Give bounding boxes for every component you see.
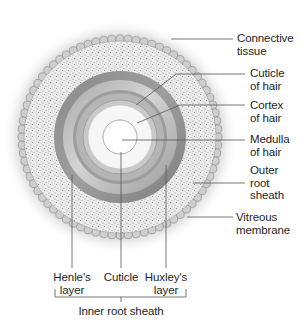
label-medulla-of-hair: Medulla of hair [250,133,290,158]
label-cuticle: Cuticle [104,271,138,284]
label-line: Connective [237,32,294,45]
label-line: membrane [236,224,290,237]
label-line: layer [145,284,187,297]
label-line: sheath [250,189,284,202]
label-huxleys-layer: Huxley's layer [145,271,187,296]
label-line: Cuticle [250,67,284,80]
label-line: Vitreous [236,211,290,224]
label-cortex-of-hair: Cortex of hair [250,99,283,124]
label-line: of hair [250,146,290,159]
label-outer-root-sheath: Outer root sheath [250,164,284,202]
label-line: Cortex [250,99,283,112]
label-line: root [250,177,284,190]
label-connective-tissue: Connective tissue [237,32,294,57]
label-line: of hair [250,80,284,93]
medulla-of-hair [103,120,137,154]
label-line: Medulla [250,133,290,146]
label-line: Outer [250,164,284,177]
label-henles-layer: Henle's layer [53,271,90,296]
label-cuticle-of-hair: Cuticle of hair [250,67,284,92]
label-line: of hair [250,112,283,125]
label-line: Huxley's [145,271,187,284]
label-line: tissue [237,45,294,58]
label-inner-root-sheath: Inner root sheath [78,305,163,318]
label-line: Cuticle [104,271,138,284]
label-vitreous-membrane: Vitreous membrane [236,211,290,236]
label-line: Henle's [53,271,90,284]
label-line: layer [53,284,90,297]
